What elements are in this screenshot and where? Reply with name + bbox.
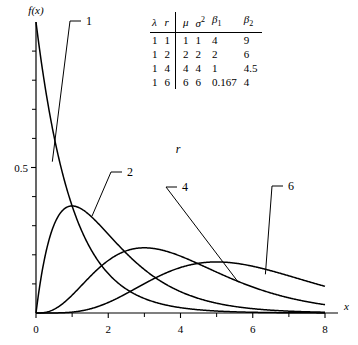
- x-axis-ticks: [36, 313, 325, 318]
- table-cell-r0-c2: 1: [176, 33, 194, 48]
- table-cell-r0-c0: 1: [150, 33, 163, 48]
- curve-label-2: 2: [127, 165, 133, 179]
- table-cell-r1-c1: 2: [163, 47, 176, 61]
- table-cell-r3-c0: 1: [150, 75, 163, 89]
- leader-line-2: [92, 172, 122, 216]
- table-header-cell-4: β1: [210, 12, 242, 33]
- table-cell-r2-c5: 4.5: [242, 61, 263, 75]
- curve-r-4: [36, 248, 325, 313]
- table-header-cell-0: λ: [150, 12, 163, 33]
- table-cell-r3-c2: 6: [176, 75, 194, 89]
- table-cell-r2-c2: 4: [176, 61, 194, 75]
- table-header-cell-1: r: [163, 12, 176, 33]
- table-row: 111149: [150, 33, 262, 48]
- table-cell-r2-c3: 4: [194, 61, 210, 75]
- table-row: 16660.1674: [150, 75, 262, 89]
- table-cell-r0-c5: 9: [242, 33, 263, 48]
- x-axis-label: x: [343, 300, 349, 312]
- table-header-cell-3: σ2: [194, 12, 210, 33]
- table-cell-r3-c4: 0.167: [210, 75, 242, 89]
- x-tick-label: 4: [178, 323, 184, 335]
- table-cell-r3-c3: 6: [194, 75, 210, 89]
- table-body: 111149122226144414.516660.1674: [150, 33, 262, 90]
- y-axis-tick-labels: 0.5: [14, 162, 28, 174]
- table-cell-r0-c4: 4: [210, 33, 242, 48]
- x-tick-label: 8: [322, 323, 328, 335]
- y-axis-label: f(x): [28, 4, 44, 17]
- table-header: λrμσ2β1β2: [150, 12, 262, 33]
- figure-container: 02468 0.5 1246 x f(x) r λrμσ2β1β2 111149…: [0, 0, 358, 345]
- table-cell-r1-c0: 1: [150, 47, 163, 61]
- table-cell-r1-c4: 2: [210, 47, 242, 61]
- table-cell-r2-c1: 4: [163, 61, 176, 75]
- table-cell-r3-c1: 6: [163, 75, 176, 89]
- leader-line-1: [52, 21, 81, 162]
- y-tick-label: 0.5: [14, 162, 28, 174]
- table-cell-r3-c5: 4: [242, 75, 263, 89]
- table-cell-r2-c0: 1: [150, 61, 163, 75]
- parameter-table: λrμσ2β1β2 111149122226144414.516660.1674: [150, 12, 262, 89]
- table-cell-r1-c3: 2: [194, 47, 210, 61]
- table-cell-r2-c4: 1: [210, 61, 242, 75]
- x-tick-label: 6: [250, 323, 256, 335]
- leader-line-6: [265, 186, 283, 274]
- curve-label-4: 4: [182, 180, 188, 194]
- curve-label-6: 6: [288, 179, 294, 193]
- table-cell-r1-c2: 2: [176, 47, 194, 61]
- curve-label-1: 1: [86, 14, 92, 28]
- parameter-table-grid: λrμσ2β1β2 111149122226144414.516660.1674: [150, 12, 262, 89]
- y-axis-ticks: [31, 51, 36, 284]
- table-row: 144414.5: [150, 61, 262, 75]
- x-axis-tick-labels: 02468: [33, 323, 328, 335]
- x-tick-label: 0: [33, 323, 39, 335]
- table-cell-r1-c5: 6: [242, 47, 263, 61]
- table-header-cell-5: β2: [242, 12, 263, 33]
- r-annotation: r: [176, 142, 181, 156]
- curve-r-2: [36, 206, 325, 313]
- table-cell-r0-c3: 1: [194, 33, 210, 48]
- table-row: 122226: [150, 47, 262, 61]
- table-header-cell-2: μ: [176, 12, 194, 33]
- leader-line-4: [166, 187, 238, 282]
- x-tick-label: 2: [106, 323, 112, 335]
- table-header-row: λrμσ2β1β2: [150, 12, 262, 33]
- table-cell-r0-c1: 1: [163, 33, 176, 48]
